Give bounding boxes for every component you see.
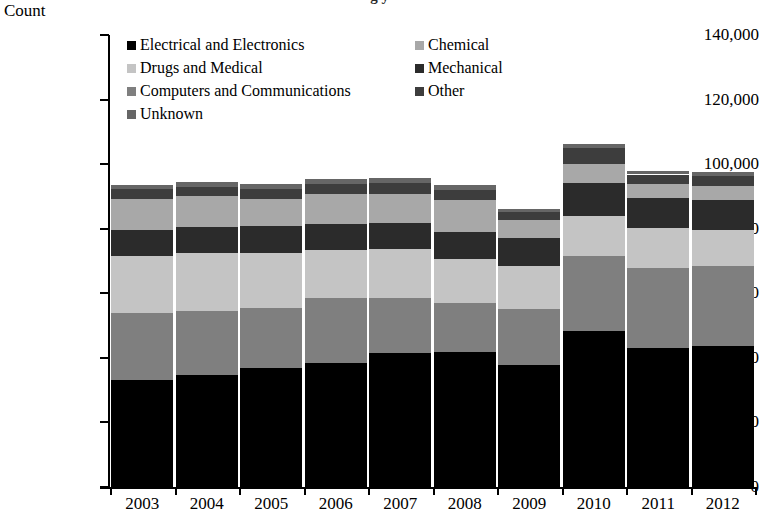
bar-segment[interactable] bbox=[111, 380, 173, 488]
bar-2012[interactable] bbox=[692, 172, 754, 487]
legend-item[interactable]: Unknown bbox=[127, 105, 203, 123]
legend-swatch-other bbox=[415, 87, 424, 96]
bar-segment[interactable] bbox=[111, 185, 173, 190]
legend-label: Electrical and Electronics bbox=[140, 36, 304, 54]
bar-segment[interactable] bbox=[498, 309, 560, 365]
bar-segment[interactable] bbox=[176, 182, 238, 187]
bar-segment[interactable] bbox=[111, 189, 173, 199]
legend-item[interactable]: Drugs and Medical bbox=[127, 59, 263, 77]
bar-segment[interactable] bbox=[563, 256, 625, 331]
bar-segment[interactable] bbox=[627, 348, 689, 487]
bar-segment[interactable] bbox=[692, 230, 754, 266]
bar-segment[interactable] bbox=[627, 171, 689, 175]
bar-segment[interactable] bbox=[434, 190, 496, 200]
bar-segment[interactable] bbox=[176, 187, 238, 197]
bar-segment[interactable] bbox=[369, 178, 431, 183]
legend-label: Unknown bbox=[140, 105, 203, 123]
bar-segment[interactable] bbox=[369, 249, 431, 299]
bar-segment[interactable] bbox=[692, 346, 754, 487]
bar-segment[interactable] bbox=[305, 298, 367, 363]
bar-segment[interactable] bbox=[563, 331, 625, 487]
bar-segment[interactable] bbox=[176, 311, 238, 375]
legend-swatch-unknown bbox=[127, 110, 136, 119]
bar-segment[interactable] bbox=[627, 184, 689, 198]
bar-segment[interactable] bbox=[692, 186, 754, 200]
y-tick-mark bbox=[100, 163, 109, 165]
bar-2008[interactable] bbox=[434, 185, 496, 487]
bar-segment[interactable] bbox=[240, 368, 302, 487]
bar-segment[interactable] bbox=[369, 194, 431, 223]
bar-segment[interactable] bbox=[692, 176, 754, 186]
bar-segment[interactable] bbox=[305, 224, 367, 250]
chart-title-clipped: g y bbox=[0, 0, 759, 4]
bar-segment[interactable] bbox=[627, 268, 689, 347]
bar-segment[interactable] bbox=[240, 253, 302, 308]
bar-segment[interactable] bbox=[240, 189, 302, 199]
bar-2005[interactable] bbox=[240, 184, 302, 487]
bar-segment[interactable] bbox=[434, 200, 496, 232]
bar-segment[interactable] bbox=[305, 250, 367, 298]
bar-segment[interactable] bbox=[111, 230, 173, 256]
bar-2009[interactable] bbox=[498, 209, 560, 487]
bar-segment[interactable] bbox=[627, 198, 689, 228]
bar-segment[interactable] bbox=[498, 238, 560, 266]
x-tick-label-2012: 2012 bbox=[691, 494, 756, 514]
bar-segment[interactable] bbox=[176, 227, 238, 253]
bar-segment[interactable] bbox=[240, 308, 302, 367]
bar-segment[interactable] bbox=[434, 185, 496, 190]
legend-item[interactable]: Electrical and Electronics bbox=[127, 36, 304, 54]
bar-2004[interactable] bbox=[176, 182, 238, 487]
bar-segment[interactable] bbox=[434, 303, 496, 352]
legend-item[interactable]: Computers and Communications bbox=[127, 82, 351, 100]
bar-segment[interactable] bbox=[305, 179, 367, 184]
bar-segment[interactable] bbox=[563, 148, 625, 165]
bar-segment[interactable] bbox=[369, 298, 431, 353]
bar-segment[interactable] bbox=[434, 259, 496, 303]
bar-segment[interactable] bbox=[498, 212, 560, 220]
bar-segment[interactable] bbox=[563, 144, 625, 148]
bar-2007[interactable] bbox=[369, 178, 431, 487]
bar-segment[interactable] bbox=[434, 232, 496, 259]
bar-2006[interactable] bbox=[305, 179, 367, 487]
bar-segment[interactable] bbox=[305, 363, 367, 487]
y-tick-mark bbox=[100, 357, 109, 359]
bar-segment[interactable] bbox=[240, 184, 302, 189]
x-tick-label-2005: 2005 bbox=[239, 494, 304, 514]
bar-segment[interactable] bbox=[434, 352, 496, 487]
bar-segment[interactable] bbox=[627, 175, 689, 185]
bar-segment[interactable] bbox=[498, 209, 560, 213]
bar-segment[interactable] bbox=[498, 220, 560, 237]
bar-segment[interactable] bbox=[692, 266, 754, 346]
bar-2003[interactable] bbox=[111, 184, 173, 487]
bar-segment[interactable] bbox=[563, 216, 625, 255]
bar-2011[interactable] bbox=[627, 171, 689, 487]
bar-segment[interactable] bbox=[240, 226, 302, 253]
legend-item[interactable]: Mechanical bbox=[415, 59, 503, 77]
bar-segment[interactable] bbox=[305, 194, 367, 224]
bar-segment[interactable] bbox=[176, 196, 238, 227]
y-tick-mark bbox=[100, 99, 109, 101]
bar-segment[interactable] bbox=[692, 200, 754, 230]
legend-item[interactable]: Other bbox=[415, 82, 464, 100]
bar-segment[interactable] bbox=[240, 199, 302, 226]
bar-segment[interactable] bbox=[111, 199, 173, 230]
bar-segment[interactable] bbox=[369, 223, 431, 249]
bar-segment[interactable] bbox=[627, 228, 689, 268]
bar-2010[interactable] bbox=[563, 144, 625, 487]
bar-segment[interactable] bbox=[111, 256, 173, 313]
bar-segment[interactable] bbox=[563, 164, 625, 183]
bar-segment[interactable] bbox=[563, 183, 625, 216]
bar-segment[interactable] bbox=[498, 365, 560, 487]
y-tick-mark bbox=[100, 34, 109, 36]
bar-segment[interactable] bbox=[692, 172, 754, 176]
legend-item[interactable]: Chemical bbox=[415, 36, 489, 54]
legend-swatch-drugs-and-medical bbox=[127, 64, 136, 73]
bar-segment[interactable] bbox=[369, 183, 431, 194]
bar-segment[interactable] bbox=[305, 184, 367, 194]
bar-segment[interactable] bbox=[111, 313, 173, 380]
bar-segment[interactable] bbox=[176, 375, 238, 487]
x-tick-label-2011: 2011 bbox=[626, 494, 691, 514]
bar-segment[interactable] bbox=[176, 253, 238, 311]
bar-segment[interactable] bbox=[369, 353, 431, 487]
bar-segment[interactable] bbox=[498, 266, 560, 309]
